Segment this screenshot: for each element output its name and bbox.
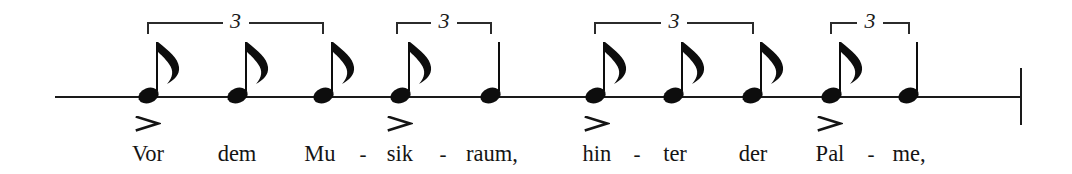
accent-mark-icon bbox=[584, 116, 610, 136]
lyric-syllable: sik bbox=[387, 142, 413, 166]
lyric-hyphen: - bbox=[360, 142, 367, 167]
accent-mark-icon bbox=[135, 116, 161, 136]
tuplet-bar-left bbox=[830, 22, 857, 24]
lyric-syllable: Pal bbox=[816, 142, 845, 166]
note-stem bbox=[916, 42, 918, 91]
eighth-flag bbox=[409, 41, 435, 89]
lyric-syllable: raum, bbox=[466, 142, 518, 166]
tuplet-bar-right bbox=[883, 22, 910, 24]
final-barline bbox=[1020, 68, 1022, 125]
accent-mark-icon bbox=[817, 116, 843, 136]
tuplet-bar-right bbox=[457, 22, 492, 24]
lyric-syllable: der bbox=[739, 142, 768, 166]
eighth-flag bbox=[761, 41, 787, 89]
tuplet-number: 3 bbox=[225, 10, 246, 32]
lyric-hyphen: - bbox=[440, 142, 447, 167]
tuplet-tick-right bbox=[908, 22, 910, 34]
tuplet-bar-right bbox=[687, 22, 754, 24]
lyric-syllable: dem bbox=[218, 142, 257, 166]
tuplet-number: 3 bbox=[664, 10, 685, 32]
note-stem bbox=[498, 42, 500, 91]
eighth-flag bbox=[332, 41, 358, 89]
lyric-syllable: Vor bbox=[132, 142, 164, 166]
tuplet-tick-right bbox=[752, 22, 754, 34]
eighth-flag bbox=[246, 41, 272, 89]
eighth-flag bbox=[157, 41, 183, 89]
eighth-flag bbox=[682, 41, 708, 89]
lyric-hyphen: - bbox=[868, 142, 875, 167]
music-notation-sheet: 3333 VordemMusikraum,hinterderPalme,---- bbox=[0, 0, 1072, 174]
tuplet-tick-left bbox=[147, 22, 149, 34]
tuplet-bar-left bbox=[594, 22, 661, 24]
tuplet-number: 3 bbox=[860, 10, 881, 32]
tuplet-tick-right bbox=[490, 22, 492, 34]
tuplet-tick-left bbox=[396, 22, 398, 34]
lyric-syllable: me, bbox=[892, 142, 925, 166]
tuplet-bar-right bbox=[249, 22, 325, 24]
eighth-flag bbox=[840, 41, 866, 89]
lyric-syllable: ter bbox=[663, 142, 687, 166]
lyric-hyphen: - bbox=[634, 142, 641, 167]
tuplet-tick-left bbox=[830, 22, 832, 34]
accent-mark-icon bbox=[387, 116, 413, 136]
eighth-flag bbox=[604, 41, 630, 89]
tuplet-tick-right bbox=[322, 22, 324, 34]
tuplet-number: 3 bbox=[434, 10, 455, 32]
tuplet-bar-left bbox=[396, 22, 431, 24]
tuplet-tick-left bbox=[594, 22, 596, 34]
tuplet-bar-left bbox=[147, 22, 223, 24]
staff-line bbox=[55, 96, 1021, 98]
lyric-syllable: Mu bbox=[304, 142, 335, 166]
lyric-syllable: hin bbox=[583, 142, 612, 166]
